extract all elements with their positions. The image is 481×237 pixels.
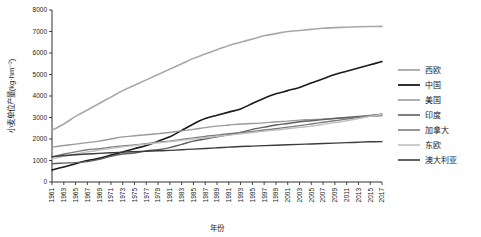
- x-tick-label: 1987: [202, 188, 209, 203]
- x-tick-label: 2003: [296, 188, 303, 203]
- legend-label-0: 西欧: [425, 65, 441, 75]
- x-tick-label: 1967: [84, 188, 91, 203]
- legend-label-4: 加拿大: [425, 125, 449, 135]
- x-tick-label: 1989: [213, 188, 220, 203]
- legend-label-6: 澳大利亚: [425, 155, 457, 165]
- x-tick-label: 1985: [190, 188, 197, 203]
- legend-label-2: 美国: [425, 95, 441, 105]
- legend-label-3: 印度: [425, 110, 441, 120]
- y-tick-label: 5000: [33, 71, 48, 78]
- y-tick-label: 7000: [33, 28, 48, 35]
- x-tick-label: 1977: [143, 188, 150, 203]
- y-tick-label: 4000: [33, 92, 48, 99]
- x-tick-label: 2017: [378, 188, 385, 203]
- y-tick-label: 0: [43, 178, 47, 185]
- y-tick-label: 8000: [33, 6, 48, 13]
- y-tick-label: 2000: [33, 135, 48, 142]
- x-tick-label: 1965: [72, 188, 79, 203]
- x-tick-label: 2013: [355, 188, 362, 203]
- x-tick-label: 1971: [107, 188, 114, 203]
- axis-lines: [52, 10, 382, 182]
- x-tick-label: 1991: [225, 188, 232, 203]
- x-tick-label: 1961: [48, 188, 55, 203]
- y-tick-label: 3000: [33, 114, 48, 121]
- x-tick-label: 2011: [343, 188, 350, 202]
- y-axis-title: 小麦单位产量(kg·hm⁻²): [6, 58, 16, 133]
- chart-canvas: 0100020003000400050006000700080001961196…: [0, 0, 481, 237]
- x-tick-label: 1969: [96, 188, 103, 203]
- y-tick-label: 6000: [33, 49, 48, 56]
- x-axis-title: 年份: [210, 223, 225, 233]
- x-tick-label: 2015: [367, 188, 374, 203]
- x-tick-label: 1997: [261, 188, 268, 203]
- x-tick-label: 2005: [308, 188, 315, 203]
- x-tick-label: 1979: [154, 188, 161, 203]
- x-tick-label: 1963: [60, 188, 67, 203]
- x-tick-label: 1993: [237, 188, 244, 203]
- chart-root: 0100020003000400050006000700080001961196…: [0, 0, 481, 237]
- x-tick-label: 1973: [119, 188, 126, 203]
- x-tick-label: 2001: [284, 188, 291, 203]
- line-chart: 0100020003000400050006000700080001961196…: [0, 0, 481, 237]
- legend-label-1: 中国: [425, 80, 441, 90]
- x-tick-label: 1995: [249, 188, 256, 203]
- legend-label-5: 东欧: [425, 140, 441, 150]
- x-tick-label: 1983: [178, 188, 185, 203]
- x-tick-label: 2009: [331, 188, 338, 203]
- x-tick-label: 1999: [272, 188, 279, 203]
- x-tick-label: 1975: [131, 188, 138, 203]
- x-tick-label: 1981: [166, 188, 173, 203]
- x-tick-label: 2007: [319, 188, 326, 203]
- y-tick-label: 1000: [33, 157, 48, 164]
